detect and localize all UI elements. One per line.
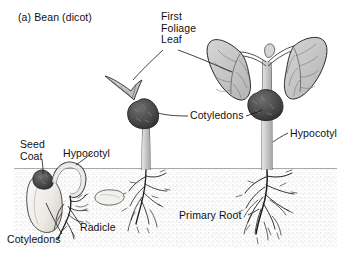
label-primary-root: Primary Root [179, 210, 241, 222]
leader-cotyledons-to-seedling [158, 113, 188, 116]
label-hypocotyl-right: Hypocotyl [290, 128, 337, 140]
label-first-foliage-leaf: First Foliage Leaf [161, 11, 196, 46]
bean-germination-figure: (a) Bean (dicot) Seed Coat Hypocotyl Rad… [0, 0, 351, 267]
leader-hypocotyl-right [273, 133, 288, 142]
figure-title: (a) Bean (dicot) [18, 12, 92, 24]
label-cotyledons-bottom: Cotyledons [7, 234, 61, 246]
label-hypocotyl-left: Hypocotyl [63, 148, 110, 160]
label-cotyledons-middle: Cotyledons [190, 110, 244, 122]
label-radicle: Radicle [80, 222, 116, 234]
label-seed-coat: Seed Coat [20, 139, 45, 162]
leader-leaf-to-seedling [133, 50, 163, 80]
